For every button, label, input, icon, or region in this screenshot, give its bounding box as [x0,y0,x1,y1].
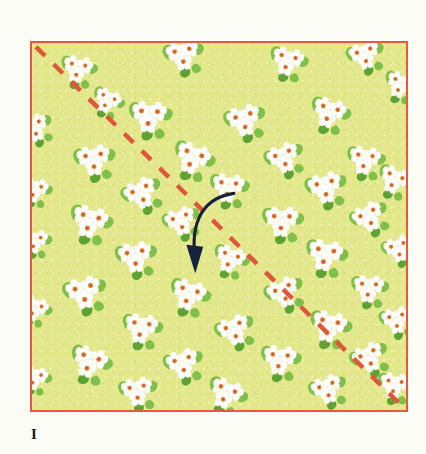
figure-caption-label: I [31,427,37,442]
figure-root: I [0,0,426,454]
fold-direction-arrow [194,193,234,250]
arrow-head-icon [186,245,203,274]
fabric-square [30,41,408,412]
fold-direction-arrow-layer [32,43,406,410]
